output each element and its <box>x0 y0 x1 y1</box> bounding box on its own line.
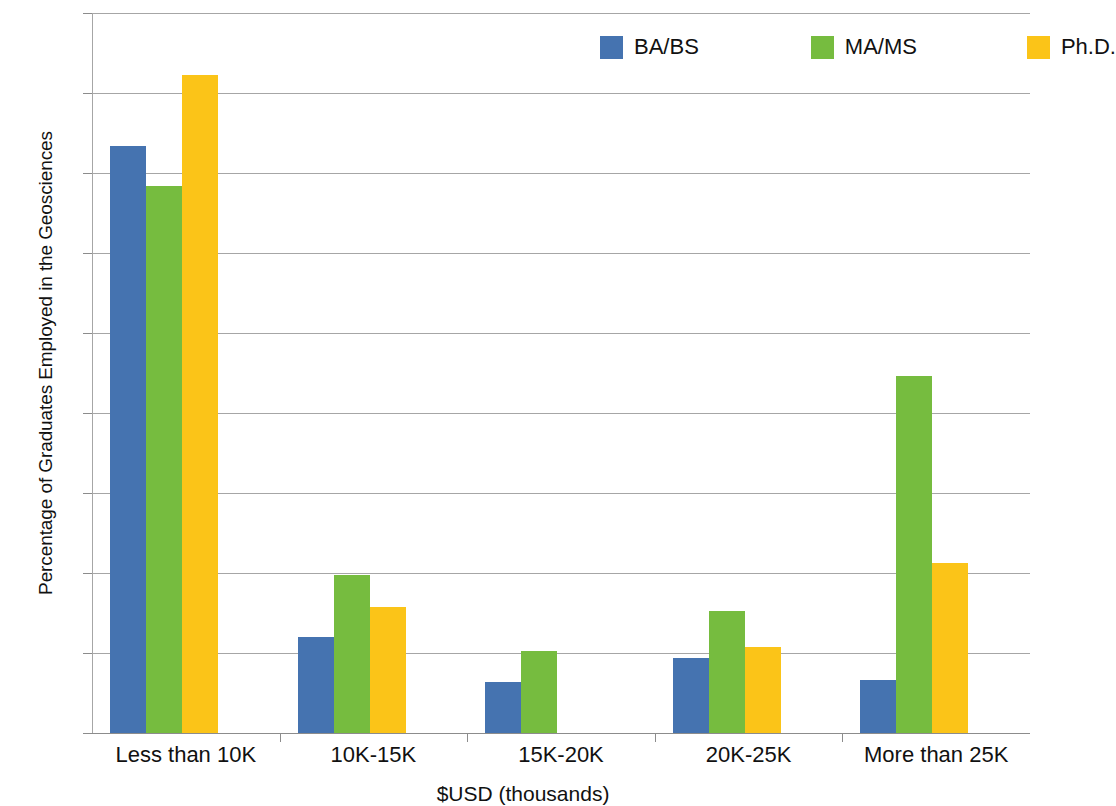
bar-group <box>110 13 218 733</box>
bar <box>745 647 781 733</box>
y-axis-tick-mark <box>83 13 92 14</box>
y-axis-spine <box>92 13 93 733</box>
x-axis-tick-label: More than 25K <box>842 742 1030 768</box>
y-axis-tick-mark <box>83 733 92 734</box>
y-axis-tick-mark <box>83 413 92 414</box>
legend-swatch-icon <box>600 36 623 59</box>
y-axis-tick-mark <box>83 493 92 494</box>
gridline <box>92 733 1030 734</box>
legend-item[interactable]: Ph.D. <box>1027 34 1116 60</box>
y-axis-title: Percentage of Graduates Employed in the … <box>35 33 57 693</box>
legend-item[interactable]: BA/BS <box>600 34 699 60</box>
bar <box>146 186 182 733</box>
x-axis-tick-mark <box>842 733 843 742</box>
x-axis-tick-mark <box>467 733 468 742</box>
y-axis-tick-mark <box>83 253 92 254</box>
x-axis-title: $USD (thousands) <box>0 782 1046 806</box>
plot-area: 0%5%10%15%20%25%30%35%40%45% <box>92 13 1030 733</box>
x-axis-tick-label: Less than 10K <box>92 742 280 768</box>
x-axis-tick-mark <box>280 733 281 742</box>
legend-swatch-icon <box>1027 36 1050 59</box>
legend-label: Ph.D. <box>1061 34 1116 60</box>
bar <box>110 146 146 733</box>
bar <box>370 607 406 733</box>
bar <box>932 563 968 733</box>
legend-swatch-icon <box>811 36 834 59</box>
y-axis-tick-mark <box>83 333 92 334</box>
bar-group <box>298 13 406 733</box>
bar-group <box>860 13 968 733</box>
bar <box>334 575 370 733</box>
bar-group <box>673 13 781 733</box>
bar-group <box>485 13 593 733</box>
bar <box>709 611 745 733</box>
bar <box>182 75 218 733</box>
bar <box>896 376 932 733</box>
legend-item[interactable]: MA/MS <box>811 34 917 60</box>
y-axis-tick-mark <box>83 573 92 574</box>
x-axis-tick-label: 10K-15K <box>280 742 468 768</box>
bar <box>485 682 521 733</box>
x-axis-tick-label: 15K-20K <box>467 742 655 768</box>
y-axis-tick-mark <box>83 93 92 94</box>
legend-label: BA/BS <box>634 34 699 60</box>
x-axis-tick-mark <box>655 733 656 742</box>
y-axis-tick-mark <box>83 653 92 654</box>
chart-legend: BA/BSMA/MSPh.D. <box>600 34 1116 60</box>
legend-label: MA/MS <box>845 34 917 60</box>
y-axis-tick-mark <box>83 173 92 174</box>
x-axis-tick-label: 20K-25K <box>655 742 843 768</box>
bar <box>860 680 896 733</box>
bar <box>521 651 557 733</box>
bar <box>298 637 334 733</box>
bar <box>673 658 709 733</box>
